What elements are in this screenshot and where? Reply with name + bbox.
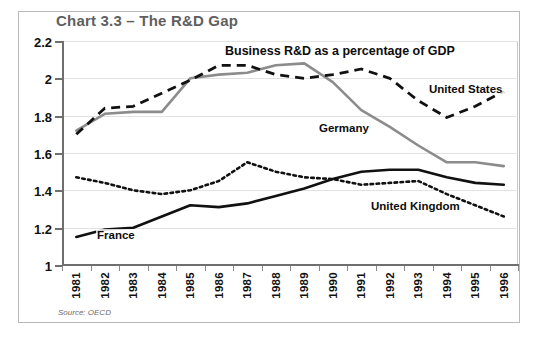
annotation-united-kingdom: United Kingdom <box>370 200 461 212</box>
annotation-united-states: United States <box>428 83 504 95</box>
source-note: Source: OECD <box>58 308 111 317</box>
annotation-header: Business R&D as a percentage of GDP <box>224 44 456 58</box>
annotation-germany: Germany <box>318 122 370 134</box>
line-united-states <box>76 65 504 134</box>
chart-screenshot: Chart 3.3 – The R&D Gap 2.2 2 1.8 1.6 1.… <box>0 0 538 337</box>
annotation-france: France <box>96 229 136 241</box>
